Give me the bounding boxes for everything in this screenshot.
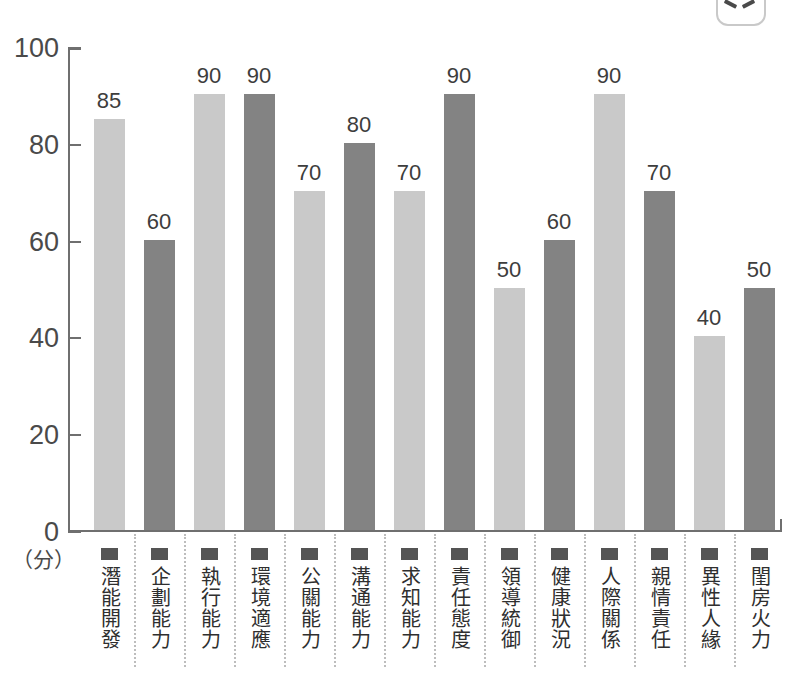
y-axis-tick-label: 60 bbox=[29, 226, 59, 257]
category-separator bbox=[134, 534, 136, 667]
category-label-text: 異性人緣 bbox=[699, 566, 720, 650]
category-marker-icon bbox=[451, 548, 468, 560]
category-label-band: 潛能開發企劃能力執行能力環境適應公關能力溝通能力求知能力責任態度領導統御健康狀況… bbox=[68, 534, 782, 677]
category-label-text: 溝通能力 bbox=[349, 566, 370, 650]
x-axis-line bbox=[68, 530, 782, 532]
category-label-text: 健康狀況 bbox=[549, 566, 570, 650]
y-axis-tick: 40 bbox=[68, 337, 81, 339]
bar: 40 bbox=[694, 336, 725, 530]
category-marker-icon bbox=[651, 548, 668, 560]
category-label-text: 潛能開發 bbox=[99, 566, 120, 650]
category-separator bbox=[284, 534, 286, 667]
category-label-text: 責任態度 bbox=[449, 566, 470, 650]
category-separator bbox=[334, 534, 336, 667]
category-label-11: 人際關係 bbox=[584, 534, 634, 677]
category-marker-icon bbox=[601, 548, 618, 560]
x-axis-end-cap bbox=[780, 519, 782, 532]
category-separator bbox=[184, 534, 186, 667]
bar: 70 bbox=[394, 191, 425, 530]
category-label-14: 閨房火力 bbox=[734, 534, 784, 677]
bar: 60 bbox=[544, 240, 575, 530]
category-marker-icon bbox=[301, 548, 318, 560]
category-marker-icon bbox=[551, 548, 568, 560]
category-separator bbox=[484, 534, 486, 667]
bar: 90 bbox=[594, 94, 625, 530]
bar-value-label: 40 bbox=[697, 305, 721, 331]
bar: 70 bbox=[294, 191, 325, 530]
y-axis-tick: 80 bbox=[68, 144, 81, 146]
category-separator bbox=[434, 534, 436, 667]
category-marker-icon bbox=[501, 548, 518, 560]
bar-value-label: 70 bbox=[297, 160, 321, 186]
bar-value-label: 80 bbox=[347, 112, 371, 138]
category-marker-icon bbox=[251, 548, 268, 560]
category-marker-icon bbox=[751, 548, 768, 560]
y-axis-tick: 100 bbox=[68, 47, 81, 49]
category-separator bbox=[584, 534, 586, 667]
category-label-text: 人際關係 bbox=[599, 566, 620, 650]
bar-value-label: 70 bbox=[647, 160, 671, 186]
category-separator bbox=[384, 534, 386, 667]
category-label-13: 異性人緣 bbox=[684, 534, 734, 677]
category-marker-icon bbox=[401, 548, 418, 560]
bar-value-label: 50 bbox=[497, 257, 521, 283]
category-separator bbox=[234, 534, 236, 667]
bar-value-label: 90 bbox=[197, 63, 221, 89]
bar-value-label: 85 bbox=[97, 88, 121, 114]
category-label-text: 企劃能力 bbox=[149, 566, 170, 650]
bar-value-label: 90 bbox=[447, 63, 471, 89]
category-separator bbox=[634, 534, 636, 667]
corner-badge bbox=[716, 0, 766, 26]
y-axis-tick-label: 40 bbox=[29, 323, 59, 354]
badge-mark-left bbox=[724, 0, 737, 9]
y-axis-tick: 60 bbox=[68, 241, 81, 243]
category-separator bbox=[734, 534, 736, 667]
category-separator bbox=[534, 534, 536, 667]
bar: 50 bbox=[494, 288, 525, 530]
y-axis-tick-label: 80 bbox=[29, 129, 59, 160]
category-label-text: 求知能力 bbox=[399, 566, 420, 650]
category-label-1: 潛能開發 bbox=[84, 534, 134, 677]
category-marker-icon bbox=[151, 548, 168, 560]
category-marker-icon bbox=[701, 548, 718, 560]
category-label-3: 執行能力 bbox=[184, 534, 234, 677]
unit-caption: （分） bbox=[12, 543, 75, 573]
bar: 90 bbox=[444, 94, 475, 530]
category-label-6: 溝通能力 bbox=[334, 534, 384, 677]
bar: 50 bbox=[744, 288, 775, 530]
category-label-text: 環境適應 bbox=[249, 566, 270, 650]
category-label-4: 環境適應 bbox=[234, 534, 284, 677]
category-label-7: 求知能力 bbox=[384, 534, 434, 677]
category-marker-icon bbox=[351, 548, 368, 560]
bar-value-label: 90 bbox=[247, 63, 271, 89]
bar-chart-plot-area: 020406080100 856090907080709050609070405… bbox=[68, 48, 782, 532]
category-marker-icon bbox=[101, 548, 118, 560]
category-label-12: 親情責任 bbox=[634, 534, 684, 677]
y-axis-line bbox=[68, 48, 70, 532]
category-label-text: 公關能力 bbox=[299, 566, 320, 650]
category-label-8: 責任態度 bbox=[434, 534, 484, 677]
category-label-5: 公關能力 bbox=[284, 534, 334, 677]
category-label-text: 親情責任 bbox=[649, 566, 670, 650]
bar: 90 bbox=[244, 94, 275, 530]
bar: 70 bbox=[644, 191, 675, 530]
bar: 90 bbox=[194, 94, 225, 530]
category-label-10: 健康狀況 bbox=[534, 534, 584, 677]
category-separator bbox=[684, 534, 686, 667]
badge-mark-right bbox=[742, 0, 755, 9]
bar-value-label: 60 bbox=[147, 209, 171, 235]
bar-value-label: 60 bbox=[547, 209, 571, 235]
category-label-9: 領導統御 bbox=[484, 534, 534, 677]
category-label-text: 閨房火力 bbox=[749, 566, 770, 650]
bar-value-label: 50 bbox=[747, 257, 771, 283]
y-axis-tick: 20 bbox=[68, 434, 81, 436]
y-axis-tick: 0 bbox=[68, 531, 81, 533]
bar-value-label: 90 bbox=[597, 63, 621, 89]
category-label-2: 企劃能力 bbox=[134, 534, 184, 677]
category-label-text: 執行能力 bbox=[199, 566, 220, 650]
category-marker-icon bbox=[201, 548, 218, 560]
bar-value-label: 70 bbox=[397, 160, 421, 186]
category-label-text: 領導統御 bbox=[499, 566, 520, 650]
bar: 80 bbox=[344, 143, 375, 530]
y-axis-tick-label: 20 bbox=[29, 420, 59, 451]
